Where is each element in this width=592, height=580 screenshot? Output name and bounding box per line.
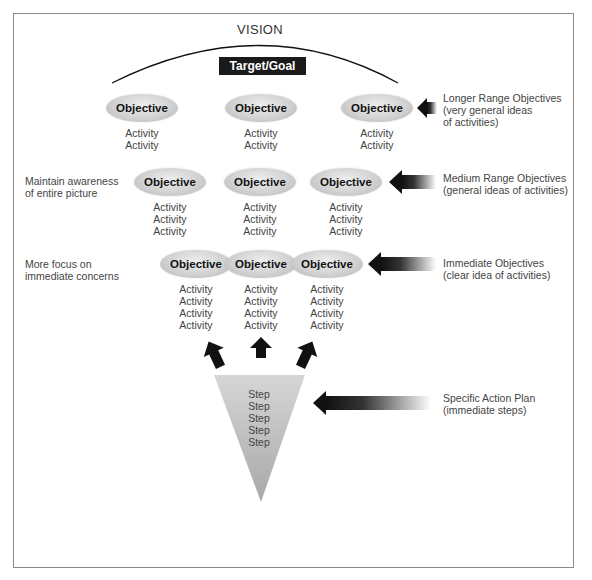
- step: Step: [223, 436, 295, 448]
- activities-longer-3: Activity Activity: [341, 127, 413, 151]
- label-line: Maintain awareness: [25, 175, 118, 187]
- label-line: immediate concerns: [25, 270, 119, 282]
- activity: Activity: [291, 319, 363, 331]
- activity: Activity: [310, 213, 382, 225]
- activity: Activity: [225, 319, 297, 331]
- objective-longer-3: Objective: [341, 94, 413, 122]
- activity: Activity: [160, 307, 232, 319]
- activity: Activity: [341, 127, 413, 139]
- arrow-medium-range: [389, 170, 436, 194]
- activities-longer-2: Activity Activity: [225, 127, 297, 151]
- label-more-focus: More focus on immediate concerns: [25, 258, 119, 282]
- up-arrow-right: [291, 337, 323, 372]
- activities-medium-2: Activity Activity Activity: [224, 201, 296, 237]
- activity: Activity: [310, 201, 382, 213]
- activity: Activity: [225, 127, 297, 139]
- note-line: Immediate Objectives: [443, 257, 550, 269]
- activity: Activity: [225, 307, 297, 319]
- arrow-longer-range: [417, 98, 437, 118]
- activity: Activity: [291, 295, 363, 307]
- objective-immediate-2: Objective: [225, 250, 297, 278]
- activities-medium-3: Activity Activity Activity: [310, 201, 382, 237]
- objective-longer-1: Objective: [106, 94, 178, 122]
- arrow-action-plan: [313, 391, 431, 415]
- activity: Activity: [225, 295, 297, 307]
- activity: Activity: [224, 201, 296, 213]
- note-action-plan: Specific Action Plan (immediate steps): [443, 392, 535, 416]
- objective-medium-1: Objective: [134, 168, 206, 196]
- step: Step: [223, 424, 295, 436]
- note-line: (clear idea of activities): [443, 269, 550, 281]
- activities-immediate-3: Activity Activity Activity Activity: [291, 283, 363, 331]
- step: Step: [223, 388, 295, 400]
- activities-immediate-1: Activity Activity Activity Activity: [160, 283, 232, 331]
- activities-medium-1: Activity Activity Activity: [134, 201, 206, 237]
- step: Step: [223, 412, 295, 424]
- objective-immediate-3: Objective: [291, 250, 363, 278]
- activity: Activity: [225, 283, 297, 295]
- label-line: of entire picture: [25, 187, 118, 199]
- activity: Activity: [291, 307, 363, 319]
- activity: Activity: [225, 139, 297, 151]
- objective-longer-2: Objective: [225, 94, 297, 122]
- note-line: of activities): [443, 116, 562, 128]
- note-line: (very general ideas: [443, 104, 562, 116]
- arrow-immediate: [368, 252, 436, 276]
- activity: Activity: [134, 213, 206, 225]
- note-longer-range: Longer Range Objectives (very general id…: [443, 92, 562, 128]
- note-line: Longer Range Objectives: [443, 92, 562, 104]
- activity: Activity: [160, 283, 232, 295]
- activity: Activity: [160, 319, 232, 331]
- objective-medium-2: Objective: [224, 168, 296, 196]
- action-plan-steps: Step Step Step Step Step: [223, 388, 295, 448]
- note-medium-range: Medium Range Objectives (general ideas o…: [443, 172, 568, 196]
- activity: Activity: [341, 139, 413, 151]
- up-arrow-center: [250, 337, 272, 358]
- target-goal-box: Target/Goal: [219, 57, 306, 75]
- activity: Activity: [310, 225, 382, 237]
- label-line: More focus on: [25, 258, 119, 270]
- step: Step: [223, 400, 295, 412]
- objective-medium-3: Objective: [310, 168, 382, 196]
- activity: Activity: [160, 295, 232, 307]
- up-arrow-left: [199, 337, 231, 372]
- objective-immediate-1: Objective: [160, 250, 232, 278]
- activity: Activity: [134, 225, 206, 237]
- activity: Activity: [134, 201, 206, 213]
- note-line: Medium Range Objectives: [443, 172, 568, 184]
- label-maintain-awareness: Maintain awareness of entire picture: [25, 175, 118, 199]
- note-line: Specific Action Plan: [443, 392, 535, 404]
- activity: Activity: [106, 139, 178, 151]
- activity: Activity: [291, 283, 363, 295]
- note-line: (general ideas of activities): [443, 184, 568, 196]
- note-line: (immediate steps): [443, 404, 535, 416]
- note-immediate: Immediate Objectives (clear idea of acti…: [443, 257, 550, 281]
- activities-longer-1: Activity Activity: [106, 127, 178, 151]
- activity: Activity: [224, 225, 296, 237]
- vision-label: VISION: [0, 22, 520, 37]
- activity: Activity: [106, 127, 178, 139]
- activity: Activity: [224, 213, 296, 225]
- activities-immediate-2: Activity Activity Activity Activity: [225, 283, 297, 331]
